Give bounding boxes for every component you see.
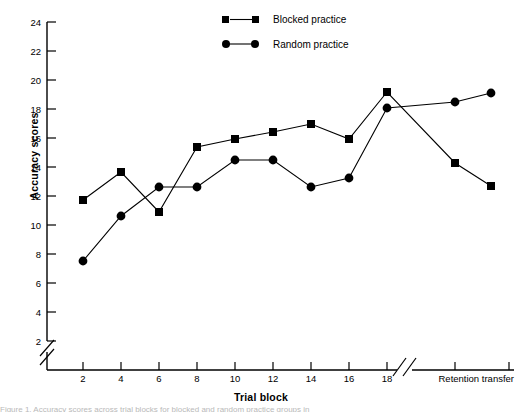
series-random-practice [79,89,496,266]
data-point-blocked [231,135,239,143]
y-tick-label: 18 [30,104,41,115]
x-retention-transfer-label: Retention transfer [438,373,514,384]
legend-item-blocked-practice: Blocked practice [222,14,347,25]
x-tick-label: 14 [306,373,317,384]
legend-item-random-practice: Random practice [222,39,349,50]
chart-plot: 24 22 20 18 16 14 12 10 8 6 4 2 [0,0,522,412]
y-tick-label: 2 [36,336,41,347]
data-point-blocked [79,196,87,204]
data-point-blocked-retention [451,159,459,167]
figure-caption-clipped: Figure 1. Accuracy scores across trial b… [0,405,522,412]
data-point-blocked [193,143,201,151]
data-point-random-transfer [487,89,496,98]
data-point-blocked [155,208,163,216]
y-tick-label: 12 [30,191,41,202]
data-point-random [383,104,392,113]
data-point-blocked-transfer [487,182,495,190]
data-point-random [117,212,126,221]
series-blocked-practice [79,88,495,216]
data-point-random [193,183,202,192]
y-tick-label: 24 [30,17,41,28]
y-tick-label: 6 [36,278,41,289]
legend-label-blocked: Blocked practice [273,14,347,25]
data-point-random-retention [451,98,460,107]
x-tick-label: 18 [382,373,393,384]
legend-label-random: Random practice [273,39,349,50]
data-point-random [345,174,354,183]
y-tick-label: 16 [30,133,41,144]
x-axis-break-mark-1 [393,358,406,376]
data-point-blocked [117,168,125,176]
x-tick-label: 6 [156,373,161,384]
data-point-blocked [269,128,277,136]
x-tick-label: 2 [80,373,85,384]
data-point-blocked [345,135,353,143]
y-tick-label: 10 [30,220,41,231]
y-axis-ticks: 24 22 20 18 16 14 12 10 8 6 4 2 [30,17,56,347]
legend-square-marker-icon [252,16,259,23]
x-tick-label: 4 [118,373,123,384]
data-point-blocked [307,120,315,128]
series-line-random [83,93,491,261]
legend-circle-marker-icon [222,40,230,48]
x-axis-break-mark-2 [403,358,416,376]
legend: Blocked practice Random practice [222,14,349,50]
data-point-random [155,183,164,192]
data-point-random [269,156,278,165]
legend-square-marker-icon [222,16,229,23]
x-tick-label: 8 [194,373,199,384]
x-tick-label: 12 [268,373,279,384]
series-line-blocked [83,92,491,212]
data-point-random [79,257,88,266]
x-tick-label: 16 [344,373,355,384]
data-point-random [307,183,316,192]
figure-container: Accuracy scores Trial block 24 22 20 18 … [0,0,522,412]
legend-circle-marker-icon [251,40,259,48]
data-point-random [231,156,240,165]
y-tick-label: 4 [36,307,41,318]
y-tick-label: 20 [30,75,41,86]
x-tick-label: 10 [230,373,241,384]
data-point-blocked [383,88,391,96]
x-axis-ticks: 2 4 6 8 10 12 14 16 18 Retention transfe… [80,362,514,384]
y-tick-label: 22 [30,46,41,57]
y-tick-label: 14 [30,162,41,173]
y-tick-label: 8 [36,249,41,260]
